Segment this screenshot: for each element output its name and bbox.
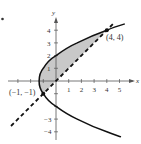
y-tick-4: 4: [47, 27, 51, 35]
point-label-4-4: (4, 4): [106, 33, 124, 42]
region-diagram: 1 2 3 4 5 x 1 2 3 4 −3 −4 y (−1, −1): [0, 0, 141, 144]
x-tick-3: 3: [92, 86, 96, 94]
bullet-icon: [1, 18, 4, 21]
x-tick-1: 1: [67, 86, 71, 94]
y-tick-1: 1: [47, 65, 51, 73]
point-4-4: [105, 28, 109, 32]
y-axis-label: y: [51, 9, 56, 17]
y-tick-neg3: −3: [44, 116, 52, 124]
point-label-neg1-neg1: (−1, −1): [9, 88, 36, 97]
y-tick-3: 3: [47, 40, 51, 48]
point-neg1-neg1: [41, 92, 45, 96]
x-axis-label: x: [135, 77, 140, 85]
x-tick-4: 4: [105, 86, 109, 94]
x-axis-arrow-icon: [129, 79, 135, 83]
x-tick-2: 2: [80, 86, 84, 94]
y-axis-arrow-icon: [54, 17, 58, 23]
x-tick-5: 5: [118, 86, 122, 94]
y-tick-neg4: −4: [44, 128, 52, 136]
